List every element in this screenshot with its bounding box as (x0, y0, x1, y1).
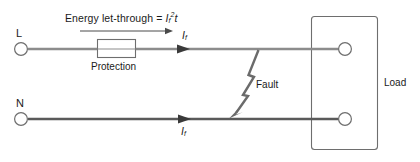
load-box (312, 17, 378, 150)
fault-label: Fault (256, 80, 278, 90)
live-current-arrowhead (177, 45, 190, 54)
live-source-terminal (15, 43, 28, 56)
neutral-current-subscript: f (184, 130, 186, 137)
neutral-fault-current-label: If (181, 126, 186, 137)
energy-letthrough-arrowhead (165, 28, 173, 34)
live-current-subscript: f (185, 34, 187, 41)
formula-time-symbol: t (175, 12, 178, 24)
formula-equals: = (156, 12, 162, 24)
live-load-terminal (339, 43, 352, 56)
live-terminal-label: L (16, 28, 22, 39)
live-fault-current-label: If (182, 30, 187, 41)
circuit-schematic-canvas (0, 0, 420, 162)
neutral-terminal-label: N (16, 98, 24, 109)
neutral-load-terminal (339, 113, 352, 126)
neutral-source-terminal (15, 113, 28, 126)
formula-prefix: Energy let-through (65, 12, 153, 24)
protection-label: Protection (91, 62, 136, 72)
energy-letthrough-formula: Energy let-through = If2t (65, 11, 178, 24)
load-label: Load (384, 78, 406, 88)
fault-current-diagram: Energy let-through = If2t L N Protection… (0, 0, 420, 162)
neutral-current-arrowhead (178, 115, 191, 124)
fault-arrowhead (229, 108, 243, 119)
